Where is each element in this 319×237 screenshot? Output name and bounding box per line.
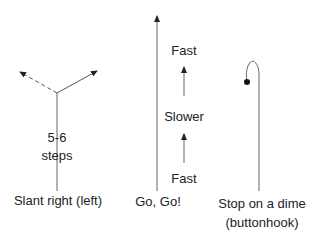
slant-steps-count: 5-6 <box>48 130 67 145</box>
slant-route-label: Slant right (left) <box>14 193 102 208</box>
go-speed-top: Fast <box>171 43 196 58</box>
go-route-label: Go, Go! <box>135 194 181 209</box>
slant-left-dashed-arrow <box>20 72 57 93</box>
buttonhook-label-line2: (buttonhook) <box>226 215 299 230</box>
slant-right-arrow <box>57 71 97 93</box>
buttonhook-label-line1: Stop on a dime <box>218 196 305 211</box>
go-speed-bottom: Fast <box>171 171 196 186</box>
stop-dot-icon <box>244 79 250 85</box>
buttonhook-route <box>244 61 259 191</box>
go-speed-middle: Slower <box>164 109 204 124</box>
slant-steps-word: steps <box>41 148 72 163</box>
